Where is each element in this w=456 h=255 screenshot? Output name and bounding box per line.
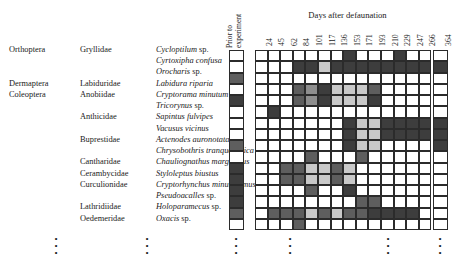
heatmap-cell [305,196,318,207]
heatmap-cell [356,95,369,106]
heatmap-cell [381,151,394,162]
heatmap-cell [406,219,419,230]
day-tick-label: 247 [416,34,425,46]
heatmap-cell [318,118,331,129]
heatmap-cell [318,185,331,196]
heatmap-cell [406,84,419,95]
heatmap-cell [381,50,394,61]
heatmap-cell [280,140,293,151]
heatmap-cell [280,95,293,106]
ellipsis-dot: • [435,250,445,255]
heatmap-cell [268,106,281,117]
heatmap-cell [343,140,356,151]
day-tick-label: 62 [290,38,299,46]
heatmap-cell [318,50,331,61]
heatmap-cell [368,140,381,151]
heatmap-cell [433,95,448,106]
heatmap-cell [280,106,293,117]
heatmap-cell [343,185,356,196]
heatmap-cell [343,106,356,117]
heatmap-cell [419,185,432,196]
heatmap-cell [268,163,281,174]
heatmap-cell [356,129,369,140]
heatmap-cell [255,185,268,196]
heatmap-cell [268,140,281,151]
heatmap-cell [293,118,306,129]
heatmap-cell [343,219,356,230]
heatmap-cell [419,174,432,185]
heatmap-cell [229,73,244,84]
heatmap-cell [394,185,407,196]
heatmap-cell [305,50,318,61]
heatmap-cell [280,73,293,84]
heatmap-cell [229,84,244,95]
day-tick-label: 136 [340,34,349,46]
heatmap-cell [331,118,344,129]
heatmap-cell [381,174,394,185]
day-tick-label: 84 [302,38,311,46]
heatmap-cell [394,196,407,207]
heatmap-cell [293,95,306,106]
heatmap-cell [331,185,344,196]
heatmap-cell [293,106,306,117]
heatmap-cell [406,61,419,72]
heatmap-cell [331,174,344,185]
heatmap-cell [305,106,318,117]
heatmap-cell [255,140,268,151]
heatmap-cell [255,163,268,174]
heatmap-cell [406,50,419,61]
heatmap-cell [318,95,331,106]
heatmap-cell [394,61,407,72]
heatmap-cell [229,50,244,61]
heatmap-cell [318,151,331,162]
heatmap-cell [318,163,331,174]
heatmap-cell [406,208,419,219]
heatmap-cell [268,129,281,140]
heatmap-cell [280,196,293,207]
heatmap-cell [318,129,331,140]
heatmap-cell [268,151,281,162]
heatmap-cell [268,196,281,207]
heatmap-cell [419,118,432,129]
heatmap-cell [433,163,448,174]
day-tick-label: 171 [365,34,374,46]
heatmap-cell [280,50,293,61]
heatmap-cell [356,163,369,174]
heatmap-cell [229,196,244,207]
heatmap-cell [268,185,281,196]
heatmap-cell [280,219,293,230]
heatmap-cell [305,140,318,151]
heatmap-cell [406,118,419,129]
heatmap-cell [433,151,448,162]
heatmap-cell [293,84,306,95]
heatmap-cell [343,95,356,106]
heatmap-cell [331,73,344,84]
day-tick-label: 364 [444,34,453,46]
heatmap-cell [229,106,244,117]
heatmap-cell [255,129,268,140]
heatmap-cell [293,196,306,207]
heatmap-cell [406,163,419,174]
ellipsis-dots: ••• [51,236,61,255]
heatmap-cell [368,174,381,185]
heatmap-cell [368,208,381,219]
heatmap-cell [419,219,432,230]
heatmap-cell [406,95,419,106]
heatmap-cell [381,61,394,72]
heatmap-cell [368,163,381,174]
heatmap-cell [331,61,344,72]
heatmap-cell [343,73,356,84]
heatmap-cell [368,106,381,117]
heatmap-cell [305,84,318,95]
heatmap-cell [406,106,419,117]
heatmap-cell [229,95,244,106]
day-tick-label: 266 [428,34,437,46]
heatmap-cell [433,106,448,117]
heatmap-cell [368,185,381,196]
heatmap-cell [394,106,407,117]
heatmap-cell [356,61,369,72]
day-tick-label: 101 [315,34,324,46]
ellipsis-dots: ••• [285,236,295,255]
heatmap-cell [433,219,448,230]
heatmap-cell [419,84,432,95]
